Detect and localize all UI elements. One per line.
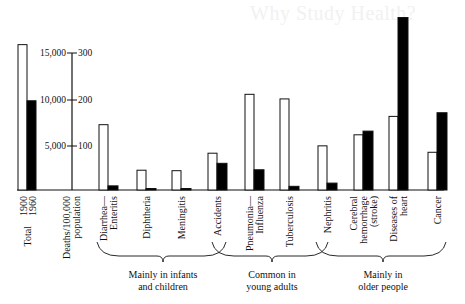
category-label: Diseases ofheart bbox=[388, 195, 409, 241]
bar-1900 bbox=[99, 125, 108, 190]
right-tick-label: 200 bbox=[78, 95, 93, 105]
bar-1960 bbox=[146, 189, 156, 191]
left-tick-label: 15,000 bbox=[40, 48, 66, 58]
category-label-line: population bbox=[71, 196, 82, 239]
left-tick-label: 5,000 bbox=[45, 141, 67, 151]
bar-total-1960 bbox=[27, 101, 36, 190]
category-labels: 19001960TotalDeaths/100,000populationDia… bbox=[18, 195, 443, 259]
bar-1960 bbox=[363, 131, 373, 190]
brace-young-adults bbox=[212, 242, 328, 262]
bar-1900 bbox=[172, 171, 181, 190]
group-label: young adults bbox=[246, 281, 297, 292]
category-label: Accidents bbox=[212, 196, 223, 236]
category-label: Meningitis bbox=[176, 196, 187, 239]
bar-1900 bbox=[245, 94, 254, 190]
bar-1900 bbox=[208, 153, 217, 190]
category-label-line: Influenza bbox=[254, 195, 265, 233]
bar-1960 bbox=[254, 170, 264, 190]
bar-1900 bbox=[318, 146, 327, 190]
category-label: Diphtheria bbox=[141, 195, 152, 238]
group-label: Mainly in infants bbox=[129, 269, 198, 280]
category-label: Cancer bbox=[432, 195, 443, 224]
bar-1900 bbox=[389, 116, 398, 190]
bar-1900 bbox=[280, 99, 289, 190]
bar-1960 bbox=[437, 113, 447, 190]
bar-total-1900 bbox=[18, 45, 27, 190]
category-label-line: 1960 bbox=[27, 196, 38, 216]
category-label: Nephritis bbox=[322, 196, 333, 233]
bar-1900 bbox=[354, 135, 363, 190]
axis-title: Deaths/100,000population bbox=[61, 196, 82, 259]
right-tick-label: 100 bbox=[78, 141, 93, 151]
bar-1960 bbox=[289, 186, 299, 190]
category-label: Tuberculosis bbox=[284, 196, 295, 247]
category-label-line: Diphtheria bbox=[141, 195, 152, 238]
bar-1960 bbox=[217, 163, 227, 190]
bar-1960 bbox=[327, 183, 337, 190]
y-axis: 15,00030010,0002005,000100 bbox=[40, 48, 93, 190]
bar-1960 bbox=[108, 186, 118, 190]
year-1960-label: 1960 bbox=[27, 196, 38, 216]
group-label: older people bbox=[358, 281, 408, 292]
right-tick-label: 300 bbox=[78, 48, 93, 58]
left-tick-label: 10,000 bbox=[40, 95, 66, 105]
bar-1900 bbox=[137, 170, 146, 190]
category-label-line: Meningitis bbox=[176, 196, 187, 239]
group-label: and children bbox=[138, 281, 188, 292]
category-label: Cerebralhemorrhage(stroke) bbox=[348, 195, 380, 243]
category-label-line: (stroke) bbox=[368, 196, 380, 227]
category-label-line: Enteritis bbox=[108, 196, 119, 230]
brace-older bbox=[316, 242, 446, 262]
bar-chart: 15,00030010,0002005,000100 19001960Total… bbox=[0, 0, 465, 304]
bar-1900 bbox=[428, 152, 437, 190]
category-label-line: Total bbox=[22, 226, 33, 247]
bar-1960 bbox=[181, 189, 191, 191]
brace-infants bbox=[97, 242, 226, 262]
category-label-line: heart bbox=[398, 196, 409, 216]
category-label-line: Accidents bbox=[212, 196, 223, 236]
group-label: Mainly in bbox=[363, 269, 402, 280]
category-label: Diarrhea—Enteritis bbox=[98, 195, 119, 241]
category-label: Pneumonia—Influenza bbox=[244, 195, 265, 251]
group-label: Common in bbox=[248, 269, 296, 280]
group-braces: Mainly in infantsand childrenCommon inyo… bbox=[97, 242, 446, 292]
bar-1960 bbox=[398, 18, 408, 191]
category-label-line: Tuberculosis bbox=[284, 196, 295, 247]
category-label-line: Nephritis bbox=[322, 196, 333, 233]
category-label-line: Cancer bbox=[432, 195, 443, 224]
total-label: Total bbox=[22, 226, 33, 247]
